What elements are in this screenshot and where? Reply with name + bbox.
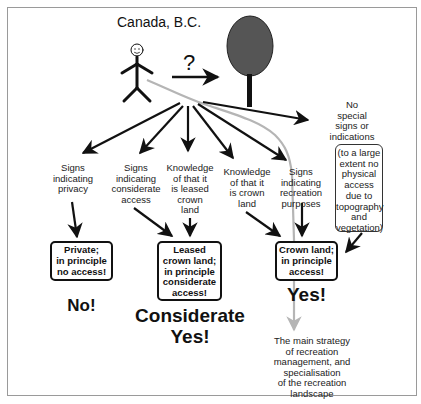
outcome-box-crown-land: Crown land; in principle access!: [275, 241, 338, 281]
verdict-considerate-yes: Considerate Yes!: [130, 305, 250, 347]
tree-icon: [227, 16, 273, 107]
verdict-no: No!: [50, 296, 113, 316]
stick-figure-icon: [122, 44, 152, 101]
question-mark: ?: [183, 50, 195, 76]
verdict-yes: Yes!: [275, 284, 338, 306]
label-signs-considerate-access: Signs indicating considerate access: [107, 163, 165, 205]
label-knowledge-crown: Knowledge of that it is crown land: [220, 167, 274, 209]
label-knowledge-leased: Knowledge of that it is leased crown lan…: [163, 163, 217, 216]
no-physical-access-note: (to a large extent no physical access du…: [335, 144, 383, 232]
page-title: Canada, B.C.: [117, 14, 201, 30]
label-signs-privacy: Signs indicating privacy: [43, 163, 103, 195]
strategy-note: The main strategy of recreation manageme…: [272, 336, 352, 400]
outcome-box-leased-crown-land: Leased crown land; in principle consider…: [157, 241, 222, 301]
label-signs-recreation: Signs indicating recreation purposes: [273, 167, 329, 209]
outcome-box-private: Private; in principle no access!: [50, 241, 113, 281]
label-no-special-signs: No special signs or indications: [321, 100, 383, 142]
diagram-canvas: Canada, B.C. ? Signs indicating privacy …: [0, 0, 421, 404]
